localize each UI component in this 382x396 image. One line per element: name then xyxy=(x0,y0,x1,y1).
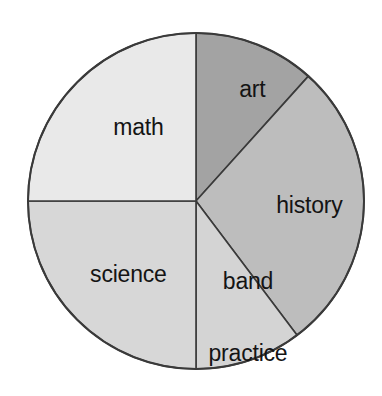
pie-chart: math art history science band practice xyxy=(0,0,382,396)
pie-slice-science xyxy=(28,201,196,369)
pie-slice-math xyxy=(28,33,196,201)
pie-slices-group xyxy=(28,33,364,369)
pie-chart-canvas xyxy=(0,0,382,396)
